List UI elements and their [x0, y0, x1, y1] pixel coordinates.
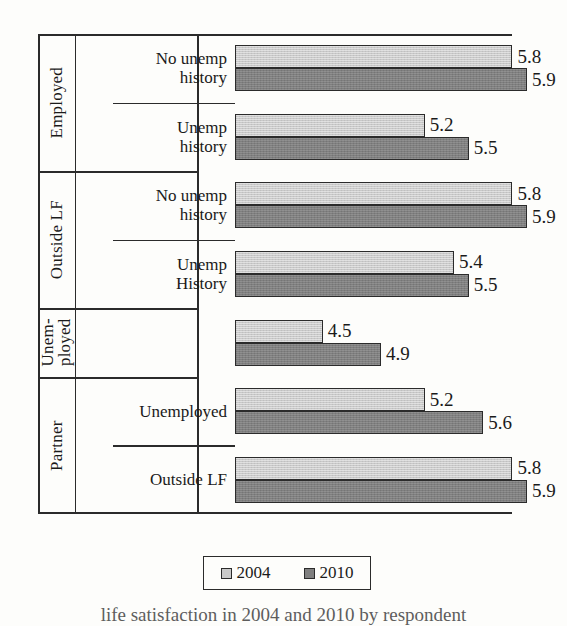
bar-row: Unemployed5.25.6: [75, 377, 512, 446]
bar-row: 4.54.9: [75, 308, 512, 377]
bar-slot: 5.5: [235, 274, 512, 297]
bar-slot: 5.4: [235, 251, 512, 274]
bar-value-label: 5.8: [512, 183, 541, 205]
bar-slot: 5.9: [235, 480, 512, 503]
bar-2004[interactable]: [235, 45, 512, 68]
bar-value-label: 5.9: [527, 480, 556, 502]
bar-pair: 5.85.9: [235, 171, 512, 240]
bar-value-label: 5.4: [454, 251, 483, 273]
row-label-line: Unemp: [177, 118, 227, 137]
bar-value-label: 5.5: [469, 137, 498, 159]
bar-2004[interactable]: [235, 320, 323, 343]
bar-value-label: 5.8: [512, 46, 541, 68]
bar-pair: 5.25.5: [235, 103, 512, 172]
bar-group: Unem-ployed4.54.9: [38, 308, 512, 377]
group-label: Outside LF: [38, 171, 75, 308]
legend-label: 2004: [237, 563, 271, 583]
bar-2010[interactable]: [235, 343, 381, 366]
bar-slot: 4.9: [235, 343, 512, 366]
bar-2004[interactable]: [235, 457, 512, 480]
row-label-line: history: [180, 205, 227, 224]
group-label-line: Outside LF: [48, 200, 65, 279]
legend-swatch-icon: [304, 568, 315, 579]
bar-value-label: 5.6: [483, 412, 512, 434]
bar-value-label: 5.9: [527, 69, 556, 91]
bar-value-label: 5.2: [425, 389, 454, 411]
bar-row: No unemphistory5.85.9: [75, 171, 512, 240]
group-label: Unem-ployed: [38, 308, 75, 377]
group-label-line: ployed: [57, 318, 74, 366]
row-label: [113, 308, 231, 377]
bar-slot: 5.9: [235, 68, 512, 91]
bar-slot: 5.2: [235, 388, 512, 411]
bar-row: UnempHistory5.45.5: [75, 240, 512, 309]
bar-2010[interactable]: [235, 480, 527, 503]
legend-item[interactable]: 2004: [221, 563, 271, 583]
legend-swatch-icon: [221, 568, 232, 579]
bar-2010[interactable]: [235, 411, 483, 434]
group-label-line: Employed: [48, 67, 65, 138]
group-label-line: Unem-: [39, 318, 56, 366]
bar-slot: 5.8: [235, 457, 512, 480]
legend-label: 2010: [320, 563, 354, 583]
row-label: Outside LF: [113, 445, 231, 514]
bar-slot: 4.5: [235, 320, 512, 343]
bar-value-label: 4.5: [323, 320, 352, 342]
bar-slot: 5.5: [235, 137, 512, 160]
bar-2010[interactable]: [235, 274, 469, 297]
bar-slot: 5.8: [235, 182, 512, 205]
bar-row: No unemphistory5.85.9: [75, 34, 512, 103]
row-label-line: Unemployed: [139, 402, 227, 421]
bar-group: Outside LFNo unemphistory5.85.9UnempHist…: [38, 171, 512, 308]
row-label: Unemployed: [113, 377, 231, 446]
group-label: Employed: [38, 34, 75, 171]
bar-pair: 5.85.9: [235, 34, 512, 103]
bar-slot: 5.8: [235, 45, 512, 68]
group-label: Partner: [38, 377, 75, 514]
figure-caption: life satisfaction in 2004 and 2010 by re…: [0, 604, 567, 626]
row-label: UnempHistory: [113, 240, 231, 309]
bar-slot: 5.2: [235, 114, 512, 137]
bar-2004[interactable]: [235, 388, 425, 411]
bar-2004[interactable]: [235, 251, 454, 274]
row-label-line: Unemp: [177, 255, 227, 274]
bar-2004[interactable]: [235, 182, 512, 205]
group-label-line: Partner: [48, 420, 65, 471]
row-label-line: Outside LF: [150, 470, 227, 489]
bar-value-label: 5.2: [425, 114, 454, 136]
bar-slot: 5.9: [235, 205, 512, 228]
chart-legend: 20042010: [203, 556, 371, 590]
row-label-line: No unemp: [156, 49, 227, 68]
bar-value-label: 5.9: [527, 206, 556, 228]
bar-group: PartnerUnemployed5.25.6Outside LF5.85.9: [38, 377, 512, 514]
row-label-line: history: [180, 68, 227, 87]
bar-pair: 5.85.9: [235, 445, 512, 514]
row-label-line: No unemp: [156, 186, 227, 205]
row-label: No unemphistory: [113, 34, 231, 103]
row-label: No unemphistory: [113, 171, 231, 240]
bar-pair: 5.25.6: [235, 377, 512, 446]
bar-2004[interactable]: [235, 114, 425, 137]
bar-group: EmployedNo unemphistory5.85.9Unemphistor…: [38, 34, 512, 171]
bar-value-label: 5.5: [469, 274, 498, 296]
bar-2010[interactable]: [235, 205, 527, 228]
bar-pair: 4.54.9: [235, 308, 512, 377]
legend-item[interactable]: 2010: [304, 563, 354, 583]
row-label-line: history: [180, 137, 227, 156]
row-label-line: History: [176, 274, 227, 293]
row-label: Unemphistory: [113, 103, 231, 172]
bar-value-label: 5.8: [512, 457, 541, 479]
bar-2010[interactable]: [235, 137, 469, 160]
bar-slot: 5.6: [235, 411, 512, 434]
bar-row: Unemphistory5.25.5: [75, 103, 512, 172]
bar-pair: 5.45.5: [235, 240, 512, 309]
bar-value-label: 4.9: [381, 343, 410, 365]
bar-row: Outside LF5.85.9: [75, 445, 512, 514]
bar-2010[interactable]: [235, 68, 527, 91]
